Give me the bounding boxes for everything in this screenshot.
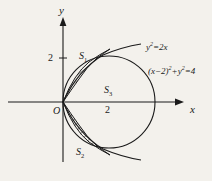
region-label-s2: S2 bbox=[76, 147, 84, 160]
region-s3-subscript: 3 bbox=[109, 90, 112, 97]
x-axis-tick-2: 2 bbox=[105, 105, 110, 115]
origin-label: O bbox=[53, 106, 60, 116]
region-s2-subscript: 2 bbox=[81, 152, 84, 159]
parabola-lower-branch bbox=[63, 102, 141, 160]
parabola-eq-rest: =2x bbox=[153, 42, 168, 52]
y-axis bbox=[59, 17, 67, 162]
circle-equation-label: (x−2)2+y2=4 bbox=[148, 65, 195, 76]
region-label-s1: S1 bbox=[79, 51, 87, 64]
circle-eq-open: (x−2) bbox=[148, 66, 169, 76]
parabola-upper-branch bbox=[63, 44, 141, 102]
circle-eq-mid: +y bbox=[172, 66, 182, 76]
region-s1-subscript: 1 bbox=[84, 56, 87, 63]
x-axis bbox=[8, 99, 184, 106]
region-label-s3: S3 bbox=[104, 85, 112, 98]
circle-eq-end: =4 bbox=[185, 66, 196, 76]
parabola-equation-label: y2=2x bbox=[146, 41, 168, 52]
math-figure: y x O 2 2 S1 S2 S3 y2=2x (x−2)2+y2=4 bbox=[0, 0, 212, 181]
x-axis-label: x bbox=[190, 104, 195, 115]
y-axis-label: y bbox=[59, 5, 64, 16]
y-axis-tick-2: 2 bbox=[48, 53, 53, 63]
